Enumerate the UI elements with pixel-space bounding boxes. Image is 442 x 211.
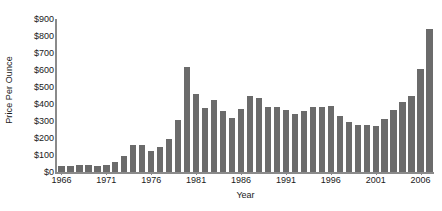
bar bbox=[148, 151, 154, 172]
x-tick-label: 1986 bbox=[231, 175, 251, 185]
x-tick-label: 1981 bbox=[186, 175, 206, 185]
x-tick-mark bbox=[106, 172, 107, 175]
bar bbox=[112, 162, 118, 172]
bar bbox=[301, 111, 307, 172]
bar bbox=[193, 94, 199, 172]
y-tick-label: $200 bbox=[34, 133, 54, 143]
bar bbox=[399, 102, 405, 172]
bar bbox=[346, 122, 352, 172]
bar bbox=[85, 165, 91, 172]
x-tick-mark bbox=[151, 172, 152, 175]
x-tick-label: 1976 bbox=[141, 175, 161, 185]
bar bbox=[229, 118, 235, 172]
x-tick-label: 2006 bbox=[411, 175, 431, 185]
y-tick-label: $400 bbox=[34, 99, 54, 109]
bar bbox=[184, 67, 190, 172]
bar bbox=[337, 116, 343, 172]
bar bbox=[67, 166, 73, 172]
bar bbox=[256, 98, 262, 172]
bar bbox=[283, 110, 289, 172]
bar bbox=[220, 111, 226, 172]
x-tick-mark bbox=[241, 172, 242, 175]
bar bbox=[310, 107, 316, 172]
bar bbox=[426, 29, 432, 172]
y-tick-label: $900 bbox=[34, 14, 54, 24]
bar bbox=[373, 126, 379, 172]
x-tick-mark bbox=[376, 172, 377, 175]
y-tick-label: $500 bbox=[34, 82, 54, 92]
bars-layer bbox=[57, 19, 434, 172]
x-tick-mark bbox=[61, 172, 62, 175]
x-axis-line bbox=[55, 172, 434, 174]
y-axis-title-label: Price Per Ounce bbox=[4, 56, 14, 124]
bar bbox=[130, 145, 136, 172]
bar bbox=[328, 106, 334, 172]
x-tick-mark bbox=[196, 172, 197, 175]
bar bbox=[247, 96, 253, 172]
y-tick-label: $100 bbox=[34, 150, 54, 160]
x-tick-label: 2001 bbox=[366, 175, 386, 185]
bar bbox=[94, 166, 100, 172]
bar bbox=[202, 108, 208, 172]
y-axis-tick-labels: $0$100$200$300$400$500$600$700$800$900 bbox=[16, 14, 56, 173]
bar bbox=[274, 107, 280, 172]
bar bbox=[417, 69, 423, 172]
plot-area bbox=[57, 19, 434, 172]
y-tick-label: $700 bbox=[34, 48, 54, 58]
y-tick-label: $300 bbox=[34, 116, 54, 126]
bar bbox=[390, 110, 396, 172]
x-axis-title: Year bbox=[57, 190, 434, 200]
x-tick-label: 1991 bbox=[276, 175, 296, 185]
x-tick-label: 1971 bbox=[96, 175, 116, 185]
bar bbox=[175, 120, 181, 172]
bar bbox=[381, 119, 387, 172]
x-axis-tick-labels: 196619711976198119861991199620012006 bbox=[57, 175, 437, 189]
bar bbox=[139, 145, 145, 172]
y-tick-label: $600 bbox=[34, 65, 54, 75]
bar bbox=[408, 96, 414, 172]
x-tick-label: 1996 bbox=[321, 175, 341, 185]
bar bbox=[157, 147, 163, 172]
bar bbox=[319, 107, 325, 172]
bar bbox=[355, 125, 361, 172]
bar bbox=[166, 139, 172, 172]
gold-price-bar-chart: Price Per Ounce $0$100$200$300$400$500$6… bbox=[0, 0, 442, 211]
y-tick-label: $800 bbox=[34, 31, 54, 41]
bar bbox=[211, 100, 217, 172]
x-tick-mark bbox=[331, 172, 332, 175]
bar bbox=[103, 165, 109, 172]
bar bbox=[121, 156, 127, 172]
bar bbox=[238, 109, 244, 172]
x-tick-mark bbox=[421, 172, 422, 175]
x-tick-mark bbox=[286, 172, 287, 175]
bar bbox=[292, 114, 298, 172]
x-tick-label: 1966 bbox=[51, 175, 71, 185]
bar bbox=[76, 165, 82, 172]
bar bbox=[364, 125, 370, 172]
bar bbox=[265, 107, 271, 172]
